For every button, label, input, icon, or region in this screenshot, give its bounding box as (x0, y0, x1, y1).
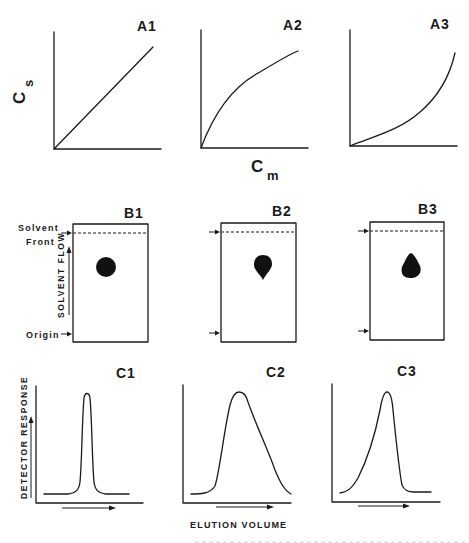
tlc-plate-b3 (370, 222, 444, 340)
svg-text:DETECTOR RESPONSE: DETECTOR RESPONSE (19, 376, 29, 499)
detector-response-arrow-icon (29, 416, 34, 498)
panel-c3: C3 (332, 363, 440, 509)
row-c-chromatograms: DETECTOR RESPONSE C1 C2 (19, 363, 440, 530)
solvent-flow-arrow-icon (67, 246, 72, 315)
panel-label-b1: B1 (124, 205, 144, 221)
row-b-tlc-plates: Solvent Front Origin SOLVENT FLOW B1 (18, 201, 444, 342)
axes-a2 (201, 30, 308, 148)
origin-label: Origin (26, 330, 60, 340)
svg-text:s: s (21, 80, 36, 87)
elution-arrow-icon-c2 (216, 505, 274, 510)
svg-text:C: C (251, 157, 263, 176)
panel-c2: C2 (183, 364, 291, 510)
chromatography-figure: C s A1 A2 C m A3 Solvent Front (0, 0, 469, 543)
peak-curve-c2 (191, 392, 291, 494)
axes-c3 (332, 384, 440, 502)
panel-a1: A1 (54, 18, 161, 149)
peak-curve-c3 (340, 392, 431, 493)
spot-tailing-b2 (254, 255, 272, 280)
panel-a2: A2 (201, 17, 308, 148)
spot-round-b1 (96, 257, 116, 277)
panel-b2: B2 (209, 203, 296, 342)
svg-text:m: m (267, 168, 279, 183)
svg-text:SOLVENT FLOW: SOLVENT FLOW (56, 232, 66, 318)
panel-label-a3: A3 (430, 16, 450, 32)
panel-label-b3: B3 (418, 201, 438, 217)
origin-arrow-icon-b1 (61, 332, 72, 337)
svg-text:C: C (10, 92, 29, 104)
axes-a1 (54, 32, 161, 149)
front-arrow-icon-b2 (209, 230, 220, 235)
peak-curve-c1 (44, 394, 129, 495)
isotherm-curve-a2 (201, 51, 298, 148)
panel-b3: B3 (358, 201, 444, 340)
x-axis-label-cm: C m (251, 157, 279, 183)
panel-label-c2: C2 (266, 364, 286, 380)
panel-label-c1: C1 (116, 365, 136, 381)
panel-label-c3: C3 (397, 363, 417, 379)
panel-label-b2: B2 (272, 203, 292, 219)
tlc-plate-b2 (221, 223, 296, 342)
solvent-flow-label: SOLVENT FLOW (56, 232, 66, 318)
front-arrow-icon-b3 (358, 229, 369, 234)
axes-c1 (36, 386, 143, 503)
solvent-front-label-line2: Front (26, 237, 55, 247)
y-axis-label-cs: C s (10, 80, 36, 104)
elution-arrow-icon-c1 (62, 506, 116, 511)
panel-b1: B1 (61, 205, 148, 342)
panel-label-a2: A2 (283, 17, 303, 33)
tlc-plate-b1 (73, 224, 148, 342)
panel-label-a1: A1 (137, 18, 157, 34)
spot-fronting-b3 (402, 253, 421, 278)
origin-arrow-icon-b2 (209, 331, 220, 336)
panel-a3: A3 (350, 16, 457, 146)
origin-arrow-icon-b3 (358, 329, 369, 334)
panel-c1: C1 (36, 365, 143, 511)
isotherm-curve-a3 (350, 53, 455, 146)
row-a-isotherms: C s A1 A2 C m A3 (10, 16, 457, 183)
elution-arrow-icon-c3 (358, 504, 410, 509)
axes-c2 (183, 385, 291, 503)
isotherm-curve-a1 (54, 47, 153, 149)
elution-volume-label: ELUTION VOLUME (190, 520, 287, 530)
detector-response-label: DETECTOR RESPONSE (19, 376, 29, 499)
solvent-front-label: Solvent (18, 223, 59, 233)
